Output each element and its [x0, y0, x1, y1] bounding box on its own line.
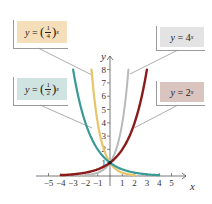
x-tick-label: 4 [157, 178, 162, 188]
y-axis-label: y [100, 50, 106, 62]
y-tick-label: 4 [102, 118, 107, 128]
label-two: y = 2x [160, 82, 204, 102]
label-half: y = (12)x [17, 78, 67, 100]
x-tick-label: 3 [145, 178, 150, 188]
x-tick-label: 2 [132, 178, 137, 188]
label-quarter: y = (14)x [17, 21, 67, 43]
x-tick-labels: −5−4−3−2−112345 [44, 178, 175, 188]
intersection-point [108, 161, 111, 164]
x-tick-label: 5 [169, 178, 174, 188]
y-tick-label: 8 [102, 65, 107, 75]
leader-two [134, 105, 178, 128]
x-tick-label: −1 [93, 178, 103, 188]
x-tick-label: −2 [81, 178, 91, 188]
y-ticks [107, 70, 110, 163]
curve-1 [73, 70, 159, 176]
y-tick-label: 6 [102, 91, 107, 101]
x-tick-label: 1 [120, 178, 125, 188]
x-tick-label: −4 [56, 178, 66, 188]
y-tick-label: 7 [102, 78, 107, 88]
x-tick-label: −3 [68, 178, 78, 188]
y-tick-label: 5 [102, 105, 107, 115]
x-axis-label: x [189, 180, 195, 192]
leader-four [130, 50, 178, 74]
label-four: y = 4x [160, 27, 204, 47]
y-tick-label: 3 [102, 131, 107, 141]
x-tick-label: −5 [44, 178, 54, 188]
leader-quarter [38, 48, 92, 75]
